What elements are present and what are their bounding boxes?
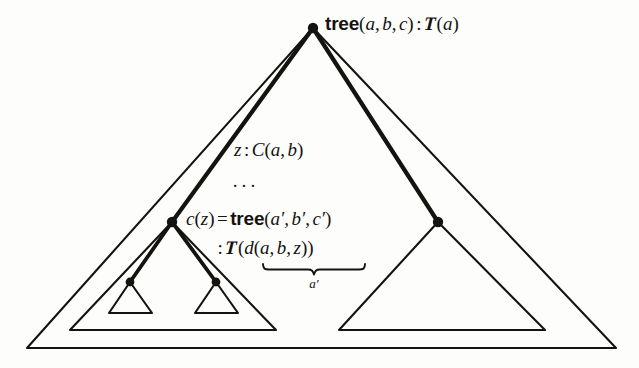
child-close-paren: ) [325,208,331,229]
small-triangle-1 [109,282,152,313]
child-comma-1: , [284,208,291,229]
root-comma-2: , [392,13,399,34]
grandchild-node-2 [212,278,221,287]
grandchild-node-1 [126,278,135,287]
child-type-head: T [225,238,239,257]
child-fn-close-paren: ) [208,208,214,229]
child-type-arg-b: b [277,237,287,258]
child-type-comma-2: , [286,237,293,258]
vertical-ellipsis-label: ··· [232,176,258,195]
child-arg-c: c [312,208,320,229]
root-type-close-paren: ) [452,13,458,34]
child-constructor: tree [230,208,264,229]
left-child-node [167,217,177,227]
child-type-inner-head-d: d [244,237,254,258]
tree-type-diagram-figure: tree(a,b,c):T(a) z:C(a,b) ··· c(z)=tree(… [0,0,639,368]
right-child-node [433,217,443,227]
root-node-label: tree(a,b,c):T(a) [325,14,459,33]
underbrace-prime: ′ [316,276,319,291]
edge-left-child-to-grandchild-2 [172,222,216,282]
right-subtree-triangle [339,222,545,330]
edge-arg-a: a [271,139,281,160]
edge-close-paren: ) [297,139,303,160]
child-arg-a: a [271,208,281,229]
edge-left-child-to-grandchild-1 [130,222,172,282]
child-type-close-paren: ) [307,237,313,258]
underbrace-label: a′ [262,276,366,292]
root-type-colon: : [414,13,424,34]
left-child-type-label: :T(d(a,b,z)) [215,238,314,257]
underbrace-annotation: a′ [262,263,366,276]
child-type-arg-a: a [260,237,270,258]
diagram-canvas [0,0,639,368]
underbrace-icon [262,263,366,276]
edge-colon: : [241,139,251,160]
root-node [308,23,318,33]
child-type-comma-1: , [270,237,277,258]
root-close-paren: ) [407,13,413,34]
edge-arg-b: b [287,139,297,160]
child-type-arg-z: z [294,237,301,258]
edge-type-head-c: C [252,139,265,160]
root-arg-a: a [365,13,375,34]
root-type-head: T [423,14,437,33]
root-constructor: tree [325,13,359,34]
left-child-node-label: c(z)=tree(a′,b′,c′) [186,209,331,228]
child-equals: = [215,208,231,229]
edge-variable-label: z:C(a,b) [234,140,303,159]
child-arg-b: b [292,208,302,229]
root-type-arg: a [443,13,453,34]
root-arg-b: b [382,13,392,34]
small-triangle-2 [195,282,238,313]
edge-root-to-right-child [313,28,438,222]
outer-triangle [27,28,616,348]
